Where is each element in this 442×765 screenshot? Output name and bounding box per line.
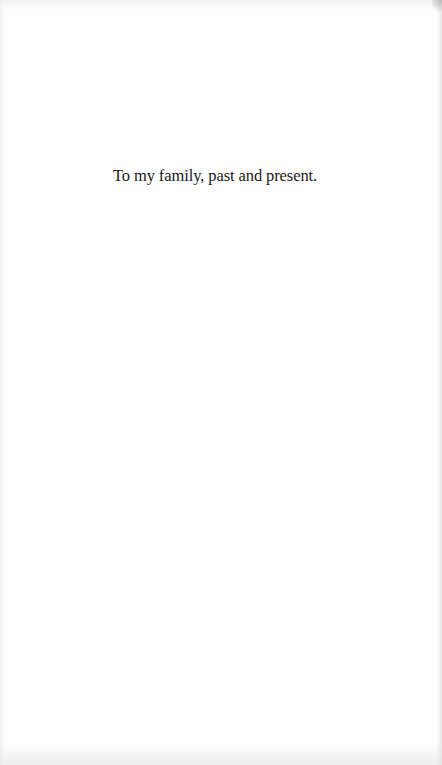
scan-corner-shadow bbox=[432, 0, 442, 14]
dedication-text: To my family, past and present. bbox=[0, 166, 430, 186]
book-page: To my family, past and present. bbox=[0, 0, 442, 765]
scan-edge-left bbox=[0, 0, 5, 765]
scan-edge-right bbox=[436, 0, 442, 765]
scan-edge-top bbox=[0, 0, 442, 10]
scan-edge-bottom bbox=[0, 743, 442, 765]
